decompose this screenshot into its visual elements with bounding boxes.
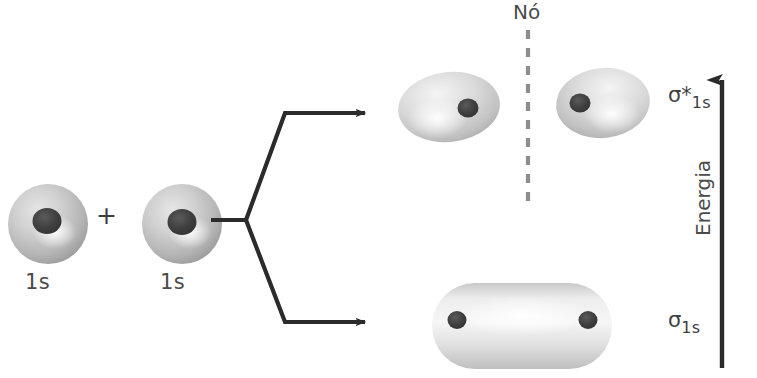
atomic-orbital-1s-left: [8, 184, 88, 264]
sigma-symbol-bonding: σ: [668, 308, 681, 332]
atomic-orbital-label-left: 1s: [25, 272, 50, 293]
sigma-symbol-antibonding: σ: [668, 83, 681, 107]
molecular-orbital-sigma-1s: [432, 283, 612, 369]
atomic-orbital-1s-right: [142, 184, 222, 264]
arrow-to-antibonding: [246, 113, 365, 220]
branching-arrows: [211, 113, 365, 322]
atomic-orbital-label-right: 1s: [160, 272, 185, 293]
antibonding-star: *: [681, 83, 692, 107]
sigma-star-subscript: 1s: [692, 93, 711, 112]
plus-sign: +: [96, 203, 117, 228]
sigma-1s-label: σ1s: [668, 310, 700, 336]
arrow-to-bonding: [246, 220, 365, 322]
sigma-subscript: 1s: [681, 318, 700, 337]
energy-axis-label: Energia: [693, 160, 713, 236]
molecular-orbital-sigma-star-1s: [395, 63, 654, 147]
sigma-star-1s-label: σ*1s: [668, 85, 711, 111]
diagram-graphics: [0, 0, 757, 378]
mo-diagram-canvas: 1s 1s + Nó Energia σ*1s σ1s: [0, 0, 757, 378]
node-label: Nó: [513, 2, 540, 22]
